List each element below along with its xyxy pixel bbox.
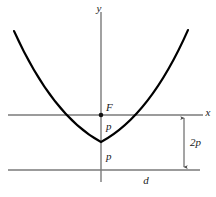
parabola-figure: y x F p p 2p d — [0, 0, 216, 197]
two-p-label: 2p — [190, 136, 202, 148]
focus-label: F — [105, 101, 113, 113]
figure-canvas: y x F p p 2p d — [0, 0, 216, 197]
focus-point-dot — [99, 113, 104, 118]
x-axis-label: x — [205, 106, 211, 118]
p-lower-label: p — [105, 150, 112, 162]
directrix-label: d — [143, 174, 149, 186]
y-axis-label: y — [96, 2, 102, 14]
p-upper-label: p — [105, 120, 112, 132]
